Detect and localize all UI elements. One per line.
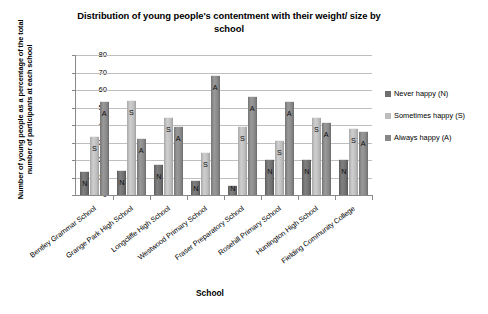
bar-group: NSA: [76, 55, 113, 195]
bar-series-letter: A: [174, 134, 183, 143]
bar: [302, 159, 311, 195]
bar-series-letter: N: [228, 184, 237, 193]
legend-label: Sometimes happy (S): [394, 112, 465, 120]
x-axis-title: School: [0, 288, 420, 298]
x-tick-mark: [150, 196, 151, 200]
x-tick-mark: [372, 196, 373, 200]
legend-swatch-icon: [385, 113, 391, 119]
bar-series-letter: A: [137, 146, 146, 155]
bar-group: NSA: [187, 55, 224, 195]
bar-group: NSA: [150, 55, 187, 195]
x-tick-mark: [335, 196, 336, 200]
legend-item[interactable]: Never happy (N): [385, 90, 487, 112]
bar-series-letter: S: [312, 125, 321, 134]
legend-swatch-icon: [385, 91, 391, 97]
bar-series-letter: N: [80, 179, 89, 188]
bar-group: NSA: [335, 55, 372, 195]
bar-series-letter: S: [164, 125, 173, 134]
bar-series-letter: A: [211, 83, 220, 92]
bar-series-letter: N: [191, 184, 200, 193]
bar-series-letter: S: [201, 160, 210, 169]
bar: [211, 75, 220, 195]
bar-series-letter: N: [117, 178, 126, 187]
bar-group: NSA: [298, 55, 335, 195]
bar-series-letter: S: [90, 144, 99, 153]
bar: [201, 152, 210, 195]
x-tick-mark: [298, 196, 299, 200]
chart-title: Distribution of young people's contentme…: [64, 9, 394, 35]
legend-item[interactable]: Always happy (A): [385, 134, 487, 156]
legend-label: Always happy (A): [394, 134, 452, 142]
bar-group: NSA: [113, 55, 150, 195]
x-tick-mark: [113, 196, 114, 200]
plot-area: NSANSANSANSANSANSANSANSA: [76, 55, 372, 195]
bar-series-letter: N: [339, 167, 348, 176]
bar-chart: Number of young people as a percentage o…: [0, 0, 488, 314]
x-tick-mark: [224, 196, 225, 200]
bar-series-letter: S: [275, 148, 284, 157]
y-axis-title: Number of young people as a percentage o…: [16, 7, 35, 212]
bar: [339, 159, 348, 195]
chart-legend: Never happy (N)Sometimes happy (S)Always…: [385, 90, 487, 156]
bar-series-letter: S: [238, 134, 247, 143]
bar-series-letter: N: [302, 167, 311, 176]
bar-series-letter: N: [265, 167, 274, 176]
bar-group: NSA: [261, 55, 298, 195]
bar-series-letter: A: [248, 104, 257, 113]
bar-series-letter: N: [154, 172, 163, 181]
bar-series-letter: A: [285, 109, 294, 118]
legend-item[interactable]: Sometimes happy (S): [385, 112, 487, 134]
bar-series-letter: A: [359, 139, 368, 148]
bar-series-letter: S: [349, 136, 358, 145]
bar-series-letter: S: [127, 108, 136, 117]
x-tick-mark: [187, 196, 188, 200]
legend-label: Never happy (N): [394, 90, 448, 98]
bar: [265, 159, 274, 195]
x-tick-mark: [261, 196, 262, 200]
bar-group: NSA: [224, 55, 261, 195]
legend-swatch-icon: [385, 135, 391, 141]
bar-series-letter: A: [100, 109, 109, 118]
bar-series-letter: A: [322, 130, 331, 139]
